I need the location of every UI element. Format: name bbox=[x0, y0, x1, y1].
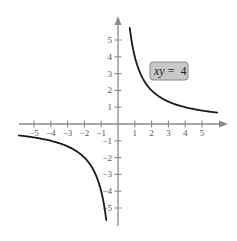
x-tick-label: −4 bbox=[46, 128, 56, 138]
y-tick-label: −3 bbox=[102, 169, 112, 179]
y-tick-label: 4 bbox=[108, 52, 113, 62]
y-tick-label: 5 bbox=[108, 35, 113, 45]
x-tick-label: −3 bbox=[63, 128, 73, 138]
x-axis-arrow-icon bbox=[219, 121, 228, 128]
y-tick-label: −1 bbox=[102, 136, 112, 146]
x-tick-label: 5 bbox=[200, 128, 205, 138]
y-tick-label: −4 bbox=[102, 186, 112, 196]
hyperbola-chart: −5−4−3−2−112345−5−4−3−2−112345 xy = 4 bbox=[0, 0, 237, 241]
y-tick-label: 3 bbox=[108, 69, 113, 79]
y-tick-label: 1 bbox=[108, 102, 113, 112]
lower-branch-curve bbox=[19, 135, 106, 220]
x-tick-label: 3 bbox=[166, 128, 171, 138]
y-tick-label: −2 bbox=[102, 153, 112, 163]
x-tick-label: 4 bbox=[183, 128, 188, 138]
equation-label-text: xy = 4 bbox=[153, 64, 186, 78]
y-tick-label: 2 bbox=[108, 85, 113, 95]
x-tick-label: 2 bbox=[149, 128, 154, 138]
x-tick-label: −2 bbox=[80, 128, 90, 138]
x-tick-label: 1 bbox=[133, 128, 138, 138]
y-axis-arrow-icon bbox=[115, 16, 122, 25]
equation-label: xy = 4 bbox=[150, 62, 188, 80]
